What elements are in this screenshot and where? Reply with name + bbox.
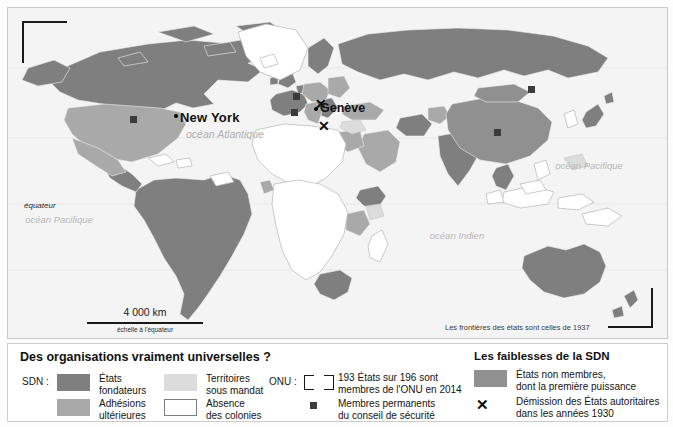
legend-swatch-no-colonies [164, 399, 197, 416]
legend-label-security-council: Membres permanents du conseil de sécurit… [338, 398, 488, 421]
legend-swatch-security-council [310, 402, 317, 409]
map-legend: Des organisations vraiment universelles … [7, 343, 668, 422]
legend-group-sdn: SDN : [22, 376, 49, 387]
legend-label-non-members: États non membres, dont la première puis… [516, 369, 673, 392]
legend-label-mandate: Territoires sous mandat [206, 373, 316, 396]
legend-swatch-founders [57, 374, 90, 391]
legend-label-resignation: Démission des États autoritaires dans le… [516, 396, 673, 419]
onu-bracket-left-icon [304, 375, 314, 390]
world-map: océan Atlantique océan Pacifique océan P… [7, 7, 668, 339]
legend-swatch-mandate [164, 374, 197, 391]
security-council-marker-france [291, 109, 298, 116]
corner-bracket-bottom-right [608, 288, 653, 328]
corner-bracket-top-left [22, 21, 67, 63]
legend-title: Des organisations vraiment universelles … [20, 350, 271, 364]
resignation-x-icon-italy: ✕ [318, 119, 330, 133]
city-dot-new-york [174, 114, 178, 118]
legend-label-no-colonies: Absence des colonies [206, 398, 316, 421]
security-council-marker-uk [293, 93, 300, 100]
security-council-marker-ussr [528, 86, 535, 93]
resignation-x-icon-germany: ✕ [315, 97, 327, 111]
legend-weakness-title: Les faiblesses de la SDN [474, 350, 610, 362]
map-page: océan Atlantique océan Pacifique océan P… [0, 0, 673, 427]
legend-label-onu-members: 193 États sur 196 sont membres de l'ONU … [338, 372, 488, 395]
onu-bracket-right-icon [324, 375, 334, 390]
legend-swatch-later-adhesions [57, 399, 90, 416]
security-council-marker-usa [130, 116, 137, 123]
map-graphic [8, 8, 667, 338]
legend-x-icon-resignation: ✕ [476, 396, 489, 414]
scale-bar [87, 322, 203, 324]
security-council-marker-china [494, 129, 501, 136]
legend-swatch-non-members [474, 370, 507, 387]
